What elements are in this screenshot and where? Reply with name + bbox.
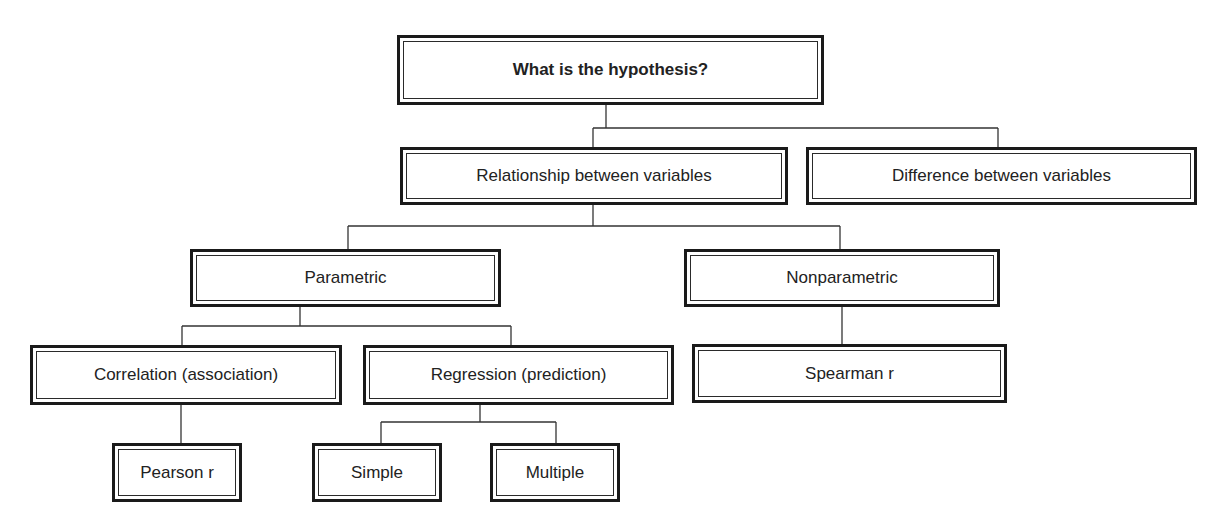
node-hypothesis-label: What is the hypothesis? — [403, 41, 818, 99]
node-parametric-label: Parametric — [196, 255, 495, 301]
node-spearman: Spearman r — [692, 344, 1007, 403]
node-difference-label: Difference between variables — [812, 153, 1191, 199]
node-correlation: Correlation (association) — [30, 345, 342, 405]
node-spearman-label: Spearman r — [698, 350, 1001, 397]
node-hypothesis: What is the hypothesis? — [397, 35, 824, 105]
node-nonparametric: Nonparametric — [684, 249, 1000, 307]
node-pearson-label: Pearson r — [118, 449, 236, 496]
node-relationship: Relationship between variables — [400, 147, 788, 205]
node-multiple-label: Multiple — [496, 449, 614, 496]
node-simple: Simple — [312, 443, 442, 502]
node-correlation-label: Correlation (association) — [36, 351, 336, 399]
node-pearson: Pearson r — [112, 443, 242, 502]
node-multiple: Multiple — [490, 443, 620, 502]
node-simple-label: Simple — [318, 449, 436, 496]
node-parametric: Parametric — [190, 249, 501, 307]
node-difference: Difference between variables — [806, 147, 1197, 205]
node-regression: Regression (prediction) — [363, 345, 674, 405]
node-nonparametric-label: Nonparametric — [690, 255, 994, 301]
node-relationship-label: Relationship between variables — [406, 153, 782, 199]
node-regression-label: Regression (prediction) — [369, 351, 668, 399]
